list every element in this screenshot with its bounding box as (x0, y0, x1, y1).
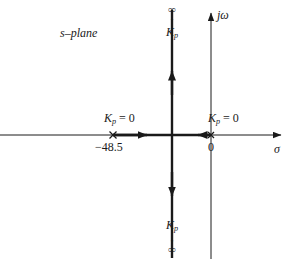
s-plane-text: s–plane (60, 26, 97, 40)
gain-equals-zero-left: = 0 (119, 111, 135, 125)
gain-to-infinity-up: ∞ ↑ Kp (150, 4, 194, 41)
gain-to-infinity-down: Kp ↓ ∞ (150, 219, 194, 256)
imaginary-axis-label: jω (217, 9, 229, 21)
real-axis-label: σ (274, 143, 280, 155)
gain-zero-label-right: Kp = 0 (208, 112, 239, 126)
origin-label: 0 (208, 141, 214, 153)
pole-value-label: −48.5 (95, 141, 123, 153)
jomega-text: jω (217, 8, 229, 22)
gain-symbol-left: K (104, 111, 112, 125)
sigma-text: σ (274, 142, 280, 156)
gain-zero-label-left: Kp = 0 (104, 112, 135, 126)
gain-subscript-right: p (216, 117, 220, 126)
infinity-symbol-bottom: ∞ (168, 244, 176, 256)
root-locus-canvas (0, 0, 291, 264)
gain-symbol-right: K (208, 111, 216, 125)
s-plane-label: s–plane (60, 27, 97, 39)
gain-symbol-bottom: Kp (166, 219, 178, 234)
gain-subscript-left: p (112, 117, 116, 126)
infinity-symbol-top: ∞ (168, 4, 176, 16)
gain-symbol-top: Kp (166, 26, 178, 41)
gain-equals-zero-right: = 0 (223, 111, 239, 125)
root-locus-figure: s–plane jω σ Kp = 0 −48.5 Kp = 0 0 ∞ ↑ K… (0, 0, 291, 264)
